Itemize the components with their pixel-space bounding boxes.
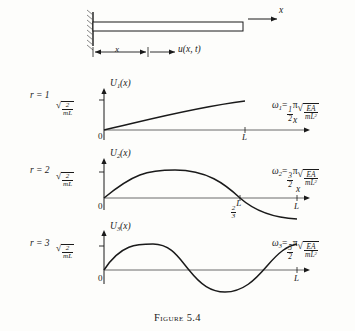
mode-label-1: r = 1 (30, 90, 50, 100)
sqrt-icon: √ 2 mL (56, 101, 74, 118)
figure-caption: Figure 5.4 (0, 312, 355, 323)
mode-label-3: r = 3 (30, 238, 50, 248)
dim-arrow-left (95, 50, 101, 55)
sqrt-icon: √ 2 mL (56, 244, 74, 261)
mode-curve-1 (104, 101, 245, 130)
y-axis-arrowhead-1 (101, 88, 106, 94)
figure-container: x x u(x, t) r = 1 √ 2 mL U1(x) 0 L x ω1=… (0, 0, 355, 331)
frequency-formula-1: ω1=12π√EAmL2 (272, 100, 319, 122)
y-axis-arrowhead-3 (101, 230, 106, 236)
x-axis-arrowhead-3 (304, 267, 310, 272)
wall-hatching (87, 10, 93, 50)
x-axis-arrowhead-1 (304, 127, 310, 132)
sqrt-icon: √EAmL2 (298, 241, 320, 259)
mode-curve-2 (104, 170, 297, 219)
origin-label-1: 0 (98, 131, 103, 141)
y-axis-arrowhead-2 (101, 158, 106, 164)
amplitude-label-1: √ 2 mL (56, 97, 74, 117)
bar-body (93, 22, 243, 31)
length-tick-label-3: L (294, 273, 299, 283)
beam-displacement-label: u(x, t) (178, 44, 201, 54)
bar-axis-arrowhead (271, 16, 277, 21)
beam-diagram (0, 0, 355, 70)
origin-label-2: 0 (98, 201, 103, 211)
frequency-formula-3: ω3=52π√EAmL2 (272, 238, 319, 260)
sqrt-icon: √EAmL2 (298, 103, 320, 121)
beam-length-label: x (115, 44, 119, 54)
frequency-formula-2: ω2=32π√EAmL2 (272, 166, 319, 188)
beam-axis-label: x (279, 5, 283, 15)
length-tick-label-2: L (294, 201, 299, 211)
zero-crossing-label-2: 23L (231, 198, 241, 220)
dim-arrow-right (140, 50, 146, 55)
displacement-arrowhead (169, 50, 175, 55)
origin-label-3: 0 (98, 273, 103, 283)
mode-label-2: r = 2 (30, 165, 50, 175)
x-axis-arrowhead-2 (304, 195, 310, 200)
mode-curve-3 (104, 244, 297, 292)
amplitude-label-2: √ 2 mL (56, 168, 74, 188)
length-tick-label-1: L (242, 132, 247, 142)
amplitude-label-3: √ 2 mL (56, 240, 74, 260)
sqrt-icon: √ 2 mL (56, 172, 74, 189)
sqrt-icon: √EAmL2 (298, 169, 320, 187)
